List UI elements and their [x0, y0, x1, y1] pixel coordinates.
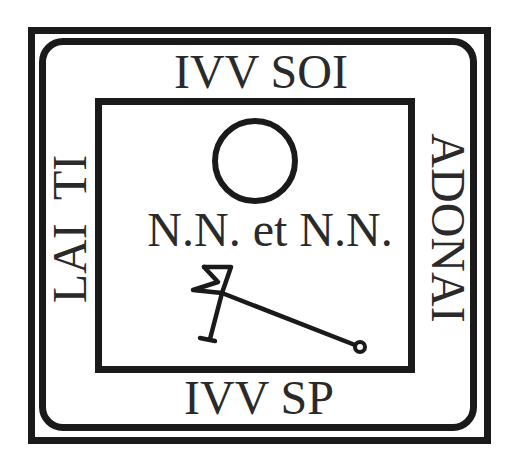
- sigil-icon: [193, 267, 355, 345]
- symbols-layer: [0, 0, 518, 469]
- circle-icon: [215, 121, 295, 201]
- sigil-end-circle-icon: [355, 342, 365, 352]
